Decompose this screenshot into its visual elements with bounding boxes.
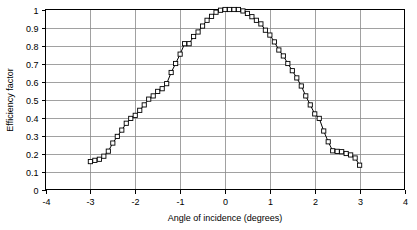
data-point-marker [232,7,236,11]
data-point-marker [151,94,155,98]
y-axis-title: Efficiency factor [5,68,15,131]
data-point-marker [245,11,249,15]
x-tick-label: 0 [223,197,228,207]
x-tick-label: 3 [358,197,363,207]
data-point-marker [326,140,330,144]
data-point-marker [129,116,133,120]
data-point-marker [142,103,146,107]
data-point-marker [191,34,195,38]
data-point-marker [353,156,357,160]
data-point-marker [214,10,218,14]
data-point-marker [97,157,101,161]
data-point-marker [349,153,353,157]
data-point-marker [290,69,294,73]
data-point-marker [254,18,258,22]
data-point-marker [340,150,344,154]
data-point-marker [313,112,317,116]
data-point-marker [187,42,191,46]
data-point-marker [160,87,164,91]
y-tick-label: 0.2 [26,150,39,160]
data-point-marker [120,128,124,132]
data-point-marker [304,94,308,98]
y-tick-label: 1 [33,6,38,16]
data-point-marker [308,103,312,107]
x-tick-label: 1 [268,197,273,207]
y-tick-label: 0.7 [26,60,39,70]
x-axis-title: Angle of incidence (degrees) [168,213,283,223]
data-point-marker [227,7,231,11]
x-tick-label: 4 [403,197,408,207]
data-point-marker [111,141,115,145]
x-tick-label: -1 [176,197,184,207]
data-point-marker [133,113,137,117]
data-point-marker [93,158,97,162]
data-point-marker [223,7,227,11]
data-point-marker [156,89,160,93]
data-point-marker [147,97,151,101]
x-tick-label: -3 [86,197,94,207]
data-point-marker [272,40,276,44]
data-point-marker [205,18,209,22]
data-point-marker [102,154,106,158]
data-point-marker [277,48,281,52]
y-tick-label: 0.3 [26,132,39,142]
y-tick-label: 0 [33,186,38,196]
data-point-marker [263,28,267,32]
data-point-marker [344,151,348,155]
data-point-marker [88,160,92,164]
data-point-marker [286,61,290,65]
chart-background [0,0,417,230]
data-point-marker [322,129,326,133]
data-point-marker [335,149,339,153]
x-tick-label: -4 [42,197,50,207]
data-point-marker [115,134,119,138]
y-tick-label: 0.8 [26,42,39,52]
y-tick-label: 0.1 [26,168,39,178]
data-point-marker [268,33,272,37]
data-point-marker [295,76,299,80]
chart-canvas: -4-3-2-101234 00.10.20.30.40.50.60.70.80… [0,0,417,230]
data-point-marker [281,54,285,58]
data-point-marker [165,82,169,86]
data-point-marker [317,116,321,120]
data-point-marker [250,15,254,19]
data-point-marker [174,61,178,65]
x-tick-label: 2 [313,197,318,207]
y-tick-label: 0.4 [26,114,39,124]
data-point-marker [259,22,263,26]
y-tick-label: 0.5 [26,96,39,106]
data-point-marker [138,108,142,112]
data-point-marker [218,8,222,12]
data-point-marker [196,30,200,34]
data-point-marker [209,14,213,18]
data-point-marker [124,121,128,125]
data-point-marker [331,149,335,153]
y-tick-label: 0.6 [26,78,39,88]
data-point-marker [106,149,110,153]
data-point-marker [241,9,245,13]
data-point-marker [358,163,362,167]
x-tick-label: -2 [131,197,139,207]
data-point-marker [236,7,240,11]
data-point-marker [299,84,303,88]
y-tick-label: 0.9 [26,24,39,34]
efficiency-factor-chart: -4-3-2-101234 00.10.20.30.40.50.60.70.80… [0,0,417,230]
data-point-marker [183,42,187,46]
data-point-marker [178,52,182,56]
data-point-marker [200,24,204,28]
data-point-marker [169,70,173,74]
